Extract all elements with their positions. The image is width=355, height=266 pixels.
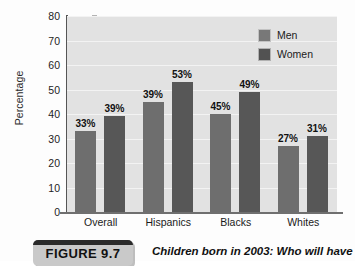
y-axis-tick-label: 50 <box>30 84 60 96</box>
legend-item-label: Women <box>277 48 313 60</box>
chart-legend: MenWomen <box>258 27 338 65</box>
bar-women-blacks: 49% <box>239 92 260 212</box>
x-axis-tick-label: Overall <box>84 216 117 228</box>
legend-item-men: Men <box>258 27 338 43</box>
x-axis-tick-label: Blacks <box>220 216 251 228</box>
x-axis-line <box>60 212 343 214</box>
bar-men-overall: 33% <box>75 131 96 212</box>
bar-women-overall: 39% <box>104 116 125 212</box>
x-axis-tick-label: Whites <box>287 216 319 228</box>
caption-band: FIGURE 9.7 Children born in 2003: Who wi… <box>0 232 355 261</box>
bar-value-label: 31% <box>307 123 327 134</box>
figure-badge-accent-bar <box>33 240 133 245</box>
bar-value-label: 27% <box>278 133 298 144</box>
y-axis-tick-label: 70 <box>30 35 60 47</box>
legend-item-women: Women <box>258 46 338 62</box>
bar-value-label: 45% <box>210 101 230 112</box>
figure-caption-text: Children born in 2003: Who will have <box>152 244 352 258</box>
y-axis-tick-label: 80 <box>30 10 60 22</box>
figure-number-text: FIGURE 9.7 <box>33 246 133 261</box>
bar-value-label: 53% <box>172 69 192 80</box>
y-axis-tick-label: 40 <box>30 108 60 120</box>
y-axis-tick-label: 30 <box>30 133 60 145</box>
bar-women-whites: 31% <box>307 136 328 212</box>
bar-group: 39%53% <box>135 16 203 212</box>
legend-swatch-icon <box>258 48 271 61</box>
bar-value-label: 49% <box>239 79 259 90</box>
bar-men-whites: 27% <box>278 146 299 212</box>
y-axis-tick-labels: 80706050403020100 <box>30 10 60 218</box>
bar-women-hispanics: 53% <box>172 82 193 212</box>
x-axis-tick-label: Hispanics <box>145 216 191 228</box>
bar-value-label: 39% <box>143 89 163 100</box>
figure-number-badge: FIGURE 9.7 <box>33 240 133 266</box>
bar-men-hispanics: 39% <box>143 102 164 212</box>
y-axis-tick-label: 60 <box>30 59 60 71</box>
bar-value-label: 39% <box>104 103 124 114</box>
y-axis-title: Percentage <box>13 53 25 143</box>
bar-group: 33%39% <box>67 16 135 212</box>
bar-value-label: 33% <box>75 118 95 129</box>
y-axis-tick-label: 20 <box>30 157 60 169</box>
y-axis-tick-label: 0 <box>30 206 60 218</box>
legend-item-label: Men <box>277 29 297 41</box>
legend-swatch-icon <box>258 29 271 42</box>
bar-chart: Percentage 80706050403020100 33%39%39%53… <box>0 0 355 232</box>
bar-men-blacks: 45% <box>210 114 231 212</box>
y-axis-tick-label: 10 <box>30 182 60 194</box>
